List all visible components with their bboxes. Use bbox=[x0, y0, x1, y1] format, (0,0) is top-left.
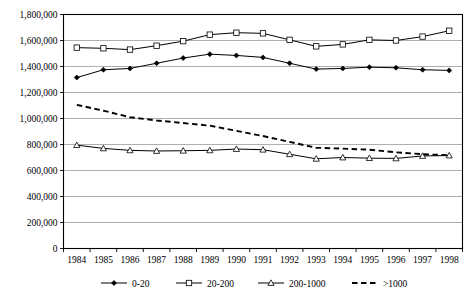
data-series-group bbox=[74, 28, 453, 161]
y-tick-label: 1,600,000 bbox=[20, 36, 58, 46]
series-marker-20-200 bbox=[207, 32, 212, 37]
x-tick-label: 1985 bbox=[94, 255, 113, 265]
series-marker-0-20 bbox=[447, 68, 452, 73]
series-marker-0-20 bbox=[261, 55, 266, 60]
series-marker-0-20 bbox=[207, 52, 212, 57]
y-tick-label: 0 bbox=[53, 244, 58, 254]
series-marker-20-200 bbox=[127, 47, 132, 52]
y-tick-label: 1,400,000 bbox=[20, 62, 58, 72]
chart-container: 0200,000400,000600,000800,0001,000,0001,… bbox=[0, 0, 468, 303]
series-marker-20-200 bbox=[287, 37, 292, 42]
legend-marker-20-200 bbox=[186, 280, 191, 285]
legend-label->1000: >1000 bbox=[383, 279, 408, 289]
x-tick-label: 1993 bbox=[307, 255, 326, 265]
series-marker-20-200 bbox=[447, 28, 452, 33]
series-marker-0-20 bbox=[154, 61, 159, 66]
x-axis-tick-labels: 1984198519861987198819891990199119921993… bbox=[67, 255, 459, 265]
series-marker-0-20 bbox=[394, 65, 399, 70]
y-axis-tick-labels: 0200,000400,000600,000800,0001,000,0001,… bbox=[20, 10, 58, 254]
y-tick-label: 200,000 bbox=[27, 218, 58, 228]
y-tick-label: 400,000 bbox=[27, 192, 58, 202]
series-marker-20-200 bbox=[74, 45, 79, 50]
x-tick-label: 1990 bbox=[227, 255, 246, 265]
x-tick-label: 1989 bbox=[200, 255, 219, 265]
series-marker-20-200 bbox=[260, 31, 265, 36]
series-marker-20-200 bbox=[420, 34, 425, 39]
x-tick-label: 1995 bbox=[360, 255, 379, 265]
x-tick-label: 1997 bbox=[413, 255, 432, 265]
x-tick-label: 1984 bbox=[67, 255, 86, 265]
y-tick-label: 800,000 bbox=[27, 140, 58, 150]
series-marker-0-20 bbox=[234, 53, 239, 58]
series-marker-0-20 bbox=[74, 75, 79, 80]
series-marker-0-20 bbox=[287, 61, 292, 66]
series-marker-20-200 bbox=[314, 44, 319, 49]
series-marker-20-200 bbox=[234, 30, 239, 35]
x-tick-label: 1988 bbox=[174, 255, 193, 265]
y-tick-label: 1,000,000 bbox=[20, 114, 58, 124]
chart-svg: 0200,000400,000600,000800,0001,000,0001,… bbox=[0, 0, 468, 303]
x-tick-label: 1998 bbox=[440, 255, 459, 265]
legend-label-0-20: 0-20 bbox=[132, 279, 150, 289]
series-marker-0-20 bbox=[181, 56, 186, 61]
x-tick-label: 1992 bbox=[280, 255, 299, 265]
x-tick-label: 1994 bbox=[333, 255, 352, 265]
series-marker-20-200 bbox=[393, 38, 398, 43]
series-marker-0-20 bbox=[420, 67, 425, 72]
x-tick-label: 1996 bbox=[387, 255, 406, 265]
legend-label-20-200: 20-200 bbox=[207, 279, 234, 289]
line-chart: 0200,000400,000600,000800,0001,000,0001,… bbox=[0, 0, 468, 303]
series-marker-20-200 bbox=[101, 46, 106, 51]
x-tick-label: 1987 bbox=[147, 255, 166, 265]
series-marker-20-200 bbox=[154, 43, 159, 48]
y-tick-label: 600,000 bbox=[27, 166, 58, 176]
series-marker-0-20 bbox=[101, 67, 106, 72]
series-marker-20-200 bbox=[181, 38, 186, 43]
legend-marker-0-20 bbox=[112, 281, 117, 286]
series-marker-20-200 bbox=[367, 37, 372, 42]
series-marker-0-20 bbox=[314, 67, 319, 72]
y-tick-label: 1,800,000 bbox=[20, 10, 58, 20]
legend-label-200-1000: 200-1000 bbox=[289, 279, 326, 289]
chart-legend: 0-2020-200200-1000>1000 bbox=[101, 279, 408, 289]
gridlines-group bbox=[64, 15, 463, 223]
y-tick-label: 1,200,000 bbox=[20, 88, 58, 98]
series-marker-20-200 bbox=[340, 42, 345, 47]
series-marker-0-20 bbox=[367, 65, 372, 70]
x-tick-label: 1991 bbox=[254, 255, 273, 265]
x-tick-label: 1986 bbox=[121, 255, 140, 265]
